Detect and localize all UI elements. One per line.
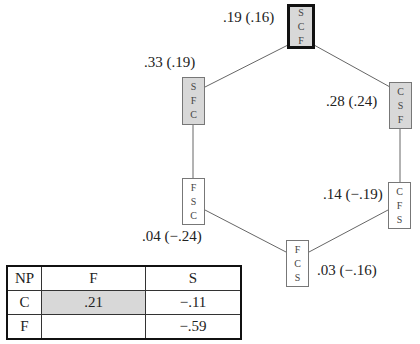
- node-letter: S: [191, 195, 197, 209]
- table-row-label: F: [7, 315, 42, 340]
- node-letter: F: [295, 243, 301, 257]
- table-header-row: NP F S: [7, 266, 241, 291]
- node-sfc: S F C: [182, 77, 205, 125]
- node-letter: C: [298, 20, 305, 34]
- node-csf: C S F: [389, 82, 412, 129]
- node-fsc-label: .04 (−.24): [142, 228, 202, 245]
- edge-cfs-fcs: [309, 210, 388, 252]
- table-cell: −.11: [146, 291, 242, 315]
- node-letter: C: [294, 257, 301, 271]
- node-letter: S: [398, 99, 404, 113]
- node-scf-label: .19 (.16): [223, 9, 274, 26]
- table-cell: −.59: [146, 315, 242, 340]
- node-letter: C: [190, 209, 197, 223]
- node-letter: S: [298, 6, 304, 20]
- edge-scf-csf: [314, 45, 390, 87]
- node-letter: S: [191, 80, 197, 94]
- node-csf-label: .28 (.24): [326, 93, 377, 110]
- node-scf: S C F: [287, 4, 315, 49]
- table-header-f: F: [42, 266, 146, 291]
- table-row-label: C: [7, 291, 42, 315]
- node-fcs-label: .03 (−.16): [317, 262, 377, 279]
- node-fsc: F S C: [182, 178, 205, 225]
- table-header-np: NP: [7, 266, 42, 291]
- table-header-s: S: [146, 266, 242, 291]
- table-cell: .21: [42, 291, 146, 315]
- node-letter: C: [396, 185, 403, 199]
- node-letter: C: [397, 85, 404, 99]
- node-cfs: C F S: [388, 182, 411, 229]
- np-table: NP F S C .21 −.11 F −.59: [6, 265, 242, 340]
- node-letter: F: [191, 94, 197, 108]
- node-fcs: F C S: [286, 240, 309, 287]
- edge-fsc-fcs: [205, 210, 286, 252]
- node-cfs-label: .14 (−.19): [323, 186, 383, 203]
- node-letter: F: [298, 34, 304, 48]
- table-row: F −.59: [7, 315, 241, 340]
- node-letter: F: [398, 113, 404, 127]
- node-letter: F: [191, 181, 197, 195]
- edge-scf-sfc: [205, 45, 288, 87]
- node-letter: S: [295, 271, 301, 285]
- node-sfc-label: .33 (.19): [144, 54, 195, 71]
- node-letter: F: [397, 199, 403, 213]
- node-letter: C: [190, 108, 197, 122]
- table-cell: [42, 315, 146, 340]
- node-letter: S: [397, 213, 403, 227]
- table-row: C .21 −.11: [7, 291, 241, 315]
